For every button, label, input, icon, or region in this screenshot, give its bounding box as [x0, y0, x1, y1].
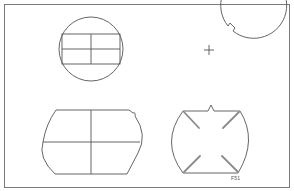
- corner-marks: [184, 112, 239, 172]
- notched-circle-outline: [221, 0, 287, 38]
- diagram-canvas: F51: [0, 0, 294, 191]
- diagonal-mark-top-right: [223, 112, 239, 128]
- diagonal-mark-bottom-right: [222, 156, 238, 172]
- diagonal-mark-bottom-left: [184, 156, 200, 172]
- panel-top-left: [59, 17, 123, 81]
- diagram-drawing: [0, 0, 294, 191]
- diagonal-mark-top-left: [184, 112, 199, 128]
- panel-top-right: [204, 0, 287, 55]
- figure-id-label: F51: [231, 175, 240, 181]
- panel-bottom-left: [42, 110, 142, 174]
